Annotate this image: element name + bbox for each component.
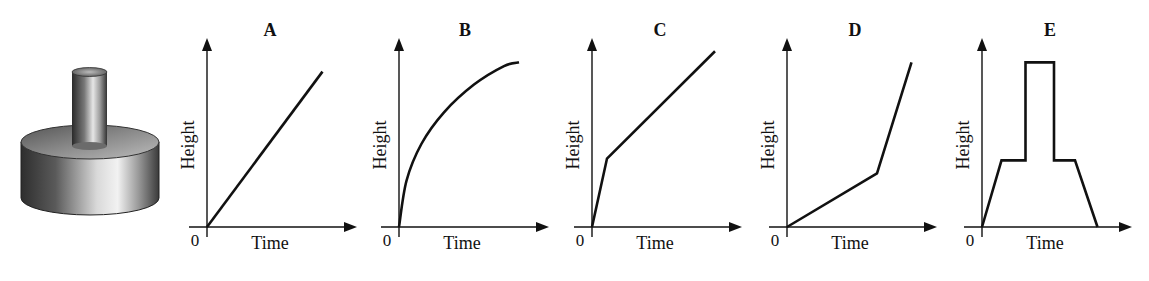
x-axis-arrow-icon — [924, 222, 937, 232]
y-axis-label: Height — [370, 121, 390, 170]
y-axis-arrow-icon — [394, 38, 404, 51]
y-axis-label: Height — [563, 121, 583, 170]
chart-e: E0TimeHeight — [953, 20, 1132, 253]
x-axis-arrow-icon — [729, 222, 742, 232]
origin-label: 0 — [771, 231, 780, 250]
y-axis-arrow-icon — [202, 38, 212, 51]
x-axis-label: Time — [251, 233, 288, 253]
height-time-line — [399, 62, 519, 227]
tube-cylinder — [72, 68, 107, 151]
y-axis-label: Height — [953, 121, 973, 170]
x-axis-arrow-icon — [1119, 222, 1132, 232]
container-illustration — [21, 68, 159, 215]
x-axis-label: Time — [636, 233, 673, 253]
chart-title: C — [654, 20, 667, 40]
chart-title: A — [264, 20, 277, 40]
chart-title: D — [849, 20, 862, 40]
y-axis-arrow-icon — [587, 38, 597, 51]
y-axis-label: Height — [178, 121, 198, 170]
chart-d: D0TimeHeight — [758, 20, 937, 253]
chart-c: C0TimeHeight — [563, 20, 742, 253]
origin-label: 0 — [191, 231, 200, 250]
chart-title: E — [1044, 20, 1056, 40]
height-time-line — [787, 62, 912, 227]
height-time-line — [207, 72, 323, 227]
height-time-line — [982, 62, 1098, 227]
y-axis-arrow-icon — [782, 38, 792, 51]
chart-b: B0TimeHeight — [370, 20, 549, 253]
chart-a: A0TimeHeight — [178, 20, 357, 253]
height-time-line — [592, 51, 715, 227]
origin-label: 0 — [576, 231, 585, 250]
origin-label: 0 — [966, 231, 975, 250]
x-axis-label: Time — [1026, 233, 1063, 253]
x-axis-label: Time — [831, 233, 868, 253]
y-axis-arrow-icon — [977, 38, 987, 51]
x-axis-label: Time — [443, 233, 480, 253]
x-axis-arrow-icon — [344, 222, 357, 232]
chart-title: B — [459, 20, 471, 40]
origin-label: 0 — [383, 231, 392, 250]
figure: A0TimeHeightB0TimeHeightC0TimeHeightD0Ti… — [0, 0, 1149, 281]
y-axis-label: Height — [758, 121, 778, 170]
x-axis-arrow-icon — [536, 222, 549, 232]
